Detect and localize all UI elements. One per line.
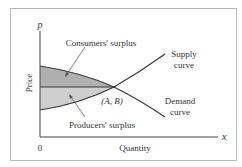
supply-curve-label-line2: curve: [174, 60, 194, 70]
demand-curve-label-line2: curve: [170, 107, 190, 117]
y-axis-symbol: p: [37, 19, 43, 30]
consumers-surplus-label: Consumers' surplus: [66, 38, 137, 48]
demand-curve-label-line1: Demand: [165, 96, 196, 106]
origin-label: 0: [38, 143, 43, 153]
x-axis-symbol: x: [221, 131, 227, 142]
supply-demand-diagram: p x 0 Quantity Price Consumers' surplus …: [0, 0, 242, 167]
equilibrium-label: (A, B): [101, 96, 123, 106]
y-axis-title: Price: [24, 74, 34, 93]
x-axis-title: Quantity: [119, 143, 151, 153]
supply-curve-label-line1: Supply: [171, 49, 197, 59]
producers-surplus-label: Producers' surplus: [69, 120, 135, 130]
equilibrium-point: [113, 86, 116, 89]
